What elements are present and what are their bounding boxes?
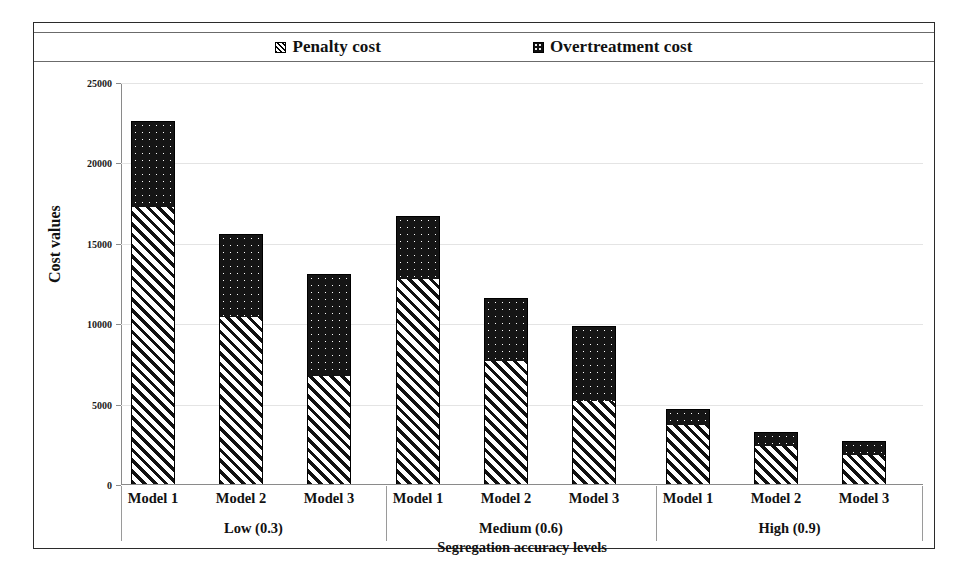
category-label-model: Model 3 [549, 490, 639, 507]
hatched-square-icon [275, 42, 286, 53]
bar-segment-penalty-cost [754, 446, 798, 485]
plot-area: 0500010000150002000025000 [121, 83, 923, 485]
bar-segment-penalty-cost [396, 279, 440, 485]
bar-segment-overtreatment-cost [219, 234, 263, 317]
legend-label-overtreatment-cost: Overtreatment cost [550, 37, 693, 57]
legend-item-penalty-cost: Penalty cost [275, 37, 381, 57]
bar-segment-penalty-cost [131, 207, 175, 485]
bar-segment-overtreatment-cost [842, 441, 886, 455]
bar-segment-penalty-cost [572, 401, 616, 485]
bar-segment-penalty-cost [666, 425, 710, 485]
category-label-model: Model 3 [819, 490, 909, 507]
stacked-bar [842, 441, 886, 485]
chart-legend: Penalty cost Overtreatment cost [34, 32, 934, 62]
category-label-model: Model 2 [461, 490, 551, 507]
y-tick-label: 25000 [87, 78, 112, 89]
category-label-model: Model 2 [731, 490, 821, 507]
y-tick-mark [116, 405, 121, 406]
stacked-bar [754, 432, 798, 485]
group-label: Low (0.3) [134, 520, 374, 537]
y-tick-label: 15000 [87, 238, 112, 249]
category-label-model: Model 3 [284, 490, 374, 507]
category-label-model: Model 2 [196, 490, 286, 507]
stacked-bar [131, 121, 175, 485]
y-axis-title: Cost values [46, 205, 64, 283]
y-tick-label: 5000 [92, 399, 112, 410]
bar-segment-penalty-cost [307, 376, 351, 485]
category-axis: Model 1Model 2Model 3Model 1Model 2Model… [121, 486, 923, 552]
bar-segment-overtreatment-cost [131, 121, 175, 207]
bar-segment-overtreatment-cost [572, 326, 616, 402]
y-tick-label: 0 [107, 480, 112, 491]
bar-segment-overtreatment-cost [484, 298, 528, 361]
filled-square-icon [533, 42, 544, 53]
bar-segment-overtreatment-cost [307, 274, 351, 376]
bar-segment-overtreatment-cost [666, 409, 710, 424]
bar-segment-overtreatment-cost [396, 216, 440, 279]
group-separator [922, 486, 923, 541]
stacked-bar [572, 326, 616, 485]
group-label: High (0.9) [670, 520, 910, 537]
legend-item-overtreatment-cost: Overtreatment cost [533, 37, 693, 57]
y-tick-mark [116, 324, 121, 325]
stacked-bar [666, 409, 710, 485]
gridline [121, 163, 923, 164]
legend-label-penalty-cost: Penalty cost [292, 37, 381, 57]
x-axis-baseline [121, 484, 923, 485]
stacked-bar [307, 274, 351, 485]
group-separator [121, 486, 122, 541]
y-tick-label: 20000 [87, 158, 112, 169]
y-tick-label: 10000 [87, 319, 112, 330]
x-axis-title: Segregation accuracy levels [121, 539, 923, 556]
y-tick-mark [116, 163, 121, 164]
y-tick-mark [116, 244, 121, 245]
y-tick-mark [116, 83, 121, 84]
stacked-bar [484, 298, 528, 485]
gridline [121, 83, 923, 84]
group-separator [656, 486, 657, 541]
stacked-bar [396, 216, 440, 485]
bar-segment-overtreatment-cost [754, 432, 798, 446]
bar-segment-penalty-cost [842, 455, 886, 485]
bar-segment-penalty-cost [219, 317, 263, 485]
group-separator [386, 486, 387, 541]
stacked-bar [219, 234, 263, 485]
chart-figure: Penalty cost Overtreatment cost Cost val… [33, 22, 935, 549]
group-label: Medium (0.6) [401, 520, 641, 537]
bar-segment-penalty-cost [484, 361, 528, 485]
